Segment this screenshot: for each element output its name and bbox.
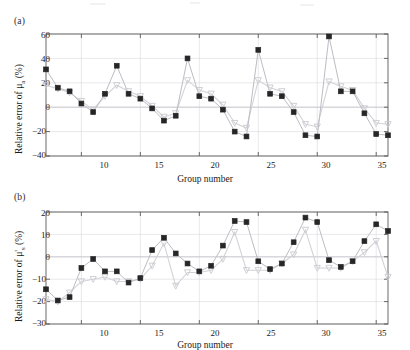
data-point-marker	[114, 63, 119, 68]
data-point-marker	[291, 110, 296, 115]
data-point-marker	[268, 267, 273, 272]
data-point-marker	[150, 106, 155, 111]
data-point-marker	[279, 94, 284, 99]
data-point-marker	[44, 67, 49, 72]
data-point-marker	[79, 266, 84, 271]
data-point-marker	[362, 111, 367, 116]
data-point-marker	[138, 96, 143, 101]
data-point-marker	[279, 261, 284, 266]
data-point-marker	[126, 91, 131, 96]
data-point-marker	[91, 110, 96, 115]
data-point-marker	[138, 276, 143, 281]
data-point-marker	[162, 235, 167, 240]
data-point-marker	[209, 263, 214, 268]
data-point-marker	[150, 248, 155, 253]
data-point-marker	[327, 34, 332, 39]
data-point-marker	[91, 257, 96, 262]
data-point-marker	[55, 85, 60, 90]
data-point-marker	[315, 220, 320, 225]
data-point-marker	[244, 134, 249, 139]
data-point-marker	[55, 298, 60, 303]
data-point-marker	[103, 269, 108, 274]
data-point-marker	[268, 91, 273, 96]
data-point-marker	[327, 258, 332, 263]
panel-a-plot-area	[0, 8, 410, 188]
data-point-marker	[303, 133, 308, 138]
data-point-marker	[374, 222, 379, 227]
data-point-marker	[126, 280, 131, 285]
data-point-marker	[209, 96, 214, 101]
data-point-marker	[67, 89, 72, 94]
data-point-marker	[232, 219, 237, 224]
data-point-marker	[232, 129, 237, 134]
data-point-marker	[162, 118, 167, 123]
data-point-marker	[114, 269, 119, 274]
data-point-marker	[315, 134, 320, 139]
data-point-marker	[386, 229, 391, 234]
panel-b: (b) Relative error of μ's (%) 20 10 0 −1…	[0, 186, 410, 350]
data-point-marker	[173, 251, 178, 256]
data-point-marker	[374, 132, 379, 137]
data-point-marker	[338, 89, 343, 94]
data-point-marker	[303, 215, 308, 220]
data-point-marker	[44, 287, 49, 292]
data-point-marker	[185, 261, 190, 266]
data-point-marker	[103, 91, 108, 96]
data-point-marker	[173, 113, 178, 118]
data-point-marker	[362, 239, 367, 244]
data-point-marker	[197, 269, 202, 274]
data-point-marker	[338, 264, 343, 269]
panel-b-plot-area	[0, 186, 410, 350]
data-point-marker	[256, 47, 261, 52]
data-point-marker	[220, 243, 225, 248]
figure-root: (a) Relative error of μa (%) 60 40 20 0 …	[0, 0, 410, 350]
data-point-marker	[350, 259, 355, 264]
data-point-marker	[197, 94, 202, 99]
data-point-marker	[350, 89, 355, 94]
data-point-marker	[386, 133, 391, 138]
data-point-marker	[79, 101, 84, 106]
data-point-marker	[185, 56, 190, 61]
data-point-marker	[256, 259, 261, 264]
panel-a: (a) Relative error of μa (%) 60 40 20 0 …	[0, 8, 410, 188]
data-point-marker	[244, 220, 249, 225]
data-point-marker	[291, 240, 296, 245]
data-point-marker	[67, 295, 72, 300]
data-point-marker	[220, 107, 225, 112]
